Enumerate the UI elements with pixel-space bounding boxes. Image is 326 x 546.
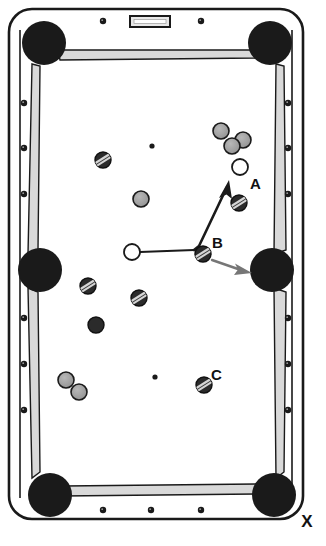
diamond-top-1 bbox=[100, 18, 106, 24]
pool-diagram: ABC X bbox=[0, 0, 326, 546]
pocket-middle-left bbox=[18, 248, 62, 292]
ball-body bbox=[133, 191, 149, 207]
ball-solid-cluster-1 bbox=[213, 123, 229, 139]
diamond-bottom-2 bbox=[148, 507, 154, 513]
pocket-bottom-right bbox=[252, 473, 296, 517]
ball-body bbox=[232, 159, 248, 175]
diamond-left-3 bbox=[21, 191, 27, 197]
diamond-right-3 bbox=[285, 191, 291, 197]
ball-body bbox=[224, 138, 240, 154]
ball-body bbox=[58, 372, 74, 388]
ball-b-object bbox=[195, 246, 211, 262]
ball-c-object bbox=[196, 377, 212, 393]
ball-body bbox=[124, 244, 140, 260]
diamond-left-1 bbox=[21, 100, 27, 106]
ball-stripe-lower-left bbox=[80, 278, 96, 294]
diamond-right-6 bbox=[285, 407, 291, 413]
ball-label-c: C bbox=[211, 366, 222, 383]
axis-label-x: X bbox=[301, 512, 313, 531]
ball-solid-mid-left bbox=[133, 191, 149, 207]
ball-a-target bbox=[232, 159, 248, 175]
diamond-right-1 bbox=[285, 100, 291, 106]
diamond-left-5 bbox=[21, 361, 27, 367]
diamond-bottom-1 bbox=[100, 507, 106, 513]
cushion-right-upper bbox=[274, 64, 286, 254]
diamond-right-4 bbox=[285, 315, 291, 321]
cushion-right-lower bbox=[274, 288, 286, 478]
ball-body bbox=[88, 317, 104, 333]
cushion-bottom bbox=[62, 484, 260, 496]
pool-table-svg: ABC X bbox=[0, 0, 326, 546]
ball-eight-dark bbox=[88, 317, 104, 333]
pocket-bottom-left bbox=[28, 473, 72, 517]
ball-cue bbox=[124, 244, 140, 260]
ball-body bbox=[213, 123, 229, 139]
ball-label-a: A bbox=[250, 175, 261, 192]
diamond-right-5 bbox=[285, 361, 291, 367]
cushion-top bbox=[58, 50, 258, 60]
diamond-left-2 bbox=[21, 145, 27, 151]
figure-caption bbox=[0, 536, 326, 546]
pocket-top-right bbox=[248, 21, 292, 65]
pocket-middle-right bbox=[250, 248, 294, 292]
ball-stripe-upper-left bbox=[95, 152, 111, 168]
diamond-left-4 bbox=[21, 315, 27, 321]
spot-center-bottom bbox=[152, 374, 157, 379]
diamond-bottom-3 bbox=[198, 507, 204, 513]
diamond-top-2 bbox=[198, 18, 204, 24]
ball-solid-cluster-3 bbox=[224, 138, 240, 154]
ball-label-b: B bbox=[212, 234, 223, 251]
ball-stripe-right bbox=[231, 195, 247, 211]
ball-stripe-lower-mid bbox=[131, 290, 147, 306]
spot-center-top bbox=[149, 143, 154, 148]
ball-body bbox=[71, 384, 87, 400]
pocket-top-left bbox=[22, 21, 66, 65]
ball-solid-bottom-2 bbox=[71, 384, 87, 400]
ball-solid-bottom-1 bbox=[58, 372, 74, 388]
rail-plaque bbox=[130, 16, 170, 27]
diamond-left-6 bbox=[21, 407, 27, 413]
diamond-right-2 bbox=[285, 145, 291, 151]
